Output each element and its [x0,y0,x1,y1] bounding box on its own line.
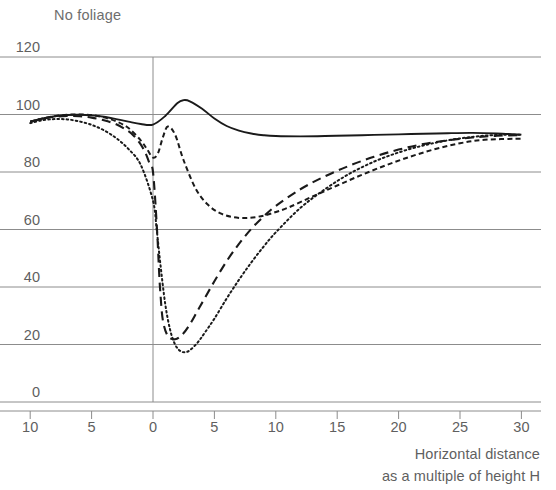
x-tick-label-0: 10 [10,419,50,435]
x-tick-label-4: 10 [256,419,296,435]
x-tick-label-8: 30 [501,419,541,435]
y-tick-label-20: 20 [4,327,40,343]
x-axis-ticks [30,411,521,419]
y-tick-label-40: 40 [4,269,40,285]
data-curves [30,100,521,352]
x-tick-label-7: 25 [440,419,480,435]
y-tick-label-60: 60 [4,212,40,228]
x-axis-caption-line1: Horizontal distance [415,446,540,462]
x-tick-label-2: 0 [133,419,173,435]
x-tick-label-5: 15 [317,419,357,435]
y-tick-label-120: 120 [4,39,40,55]
x-axis-caption-line2: as a multiple of height H [382,468,540,484]
gridlines [0,57,541,402]
curve-dotted [30,119,521,352]
y-tick-label-0: 0 [4,384,40,400]
x-tick-label-3: 5 [194,419,234,435]
curve-long-dash [30,116,521,339]
chart-plot-area [0,0,556,490]
x-tick-label-1: 5 [72,419,112,435]
y-tick-label-80: 80 [4,154,40,170]
x-tick-label-6: 20 [379,419,419,435]
chart-container: No foliage 020406080100120 1050510152025… [0,0,556,490]
y-tick-label-100: 100 [4,97,40,113]
